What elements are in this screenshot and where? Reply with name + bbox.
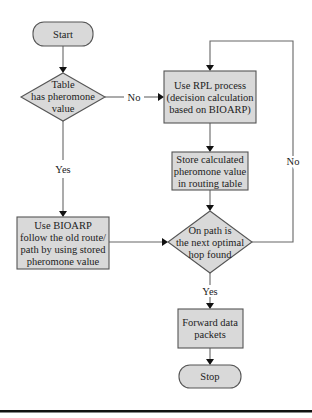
node-decision-hop-line-3: hop found — [189, 249, 233, 260]
arrowhead — [206, 65, 214, 71]
arrowhead — [206, 303, 214, 309]
node-decision-table-line-1: Table — [51, 79, 75, 90]
arrowhead — [158, 93, 164, 101]
node-decision-hop-line-2: the next optimal — [176, 237, 244, 248]
node-bioarp-line-2: follow the old route/ — [20, 232, 106, 243]
arrowhead — [59, 67, 67, 73]
node-bioarp-line-1: Use BIOARP — [34, 220, 92, 231]
node-decision-table: Table has pheromone value — [21, 73, 105, 121]
node-forward-line-2: packets — [194, 329, 226, 340]
node-stop-label: Stop — [200, 371, 219, 382]
node-store-pheromone: Store calculated pheromone value in rout… — [172, 152, 248, 190]
bottom-rule — [0, 410, 312, 413]
arrowhead — [206, 359, 214, 365]
node-bioarp-line-3: path by using stored — [21, 244, 107, 255]
node-decision-hop: On path is the next optimal hop found — [168, 211, 252, 273]
node-decision-table-line-3: value — [52, 103, 75, 114]
node-bioarp-line-4: pheromone value — [27, 256, 100, 267]
flowchart: No Yes No Yes Start Table has pheromone … — [0, 0, 312, 418]
node-start: Start — [33, 22, 93, 46]
edge-label-no-loop: No — [287, 156, 300, 167]
node-rpl-line-2: (decision calculation — [166, 92, 254, 104]
node-rpl-line-1: Use RPL process — [174, 80, 246, 91]
node-store-line-2: pheromone value — [174, 166, 247, 177]
node-stop: Stop — [179, 365, 241, 388]
node-start-label: Start — [53, 29, 73, 40]
arrowhead — [206, 146, 214, 152]
node-decision-table-line-2: has pheromone — [31, 91, 95, 102]
edge-label-yes: Yes — [55, 164, 70, 175]
node-forward-line-1: Forward data — [182, 317, 238, 328]
node-store-line-1: Store calculated — [176, 154, 244, 165]
node-forward: Forward data packets — [178, 309, 243, 348]
node-rpl-line-3: based on BIOARP) — [169, 104, 251, 116]
node-store-line-3: in routing table — [178, 178, 242, 189]
arrowhead — [206, 205, 214, 211]
edge-label-no: No — [128, 92, 141, 103]
node-decision-hop-line-1: On path is — [188, 225, 231, 236]
node-use-bioarp: Use BIOARP follow the old route/ path by… — [17, 217, 109, 269]
arrowhead — [59, 211, 67, 217]
node-rpl-process: Use RPL process (decision calculation ba… — [164, 71, 256, 123]
edge-label-yes-2: Yes — [202, 286, 217, 297]
